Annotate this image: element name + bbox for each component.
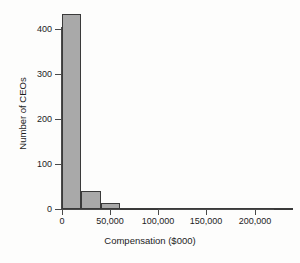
histogram-bar — [139, 208, 158, 210]
x-axis-tick-label: 150,000 — [190, 217, 223, 226]
y-axis-tick-label: 0 — [47, 205, 52, 214]
y-axis-tick-label: 100 — [37, 160, 52, 169]
histogram-bar — [197, 208, 216, 210]
x-axis-line — [61, 209, 293, 210]
histogram-bar — [235, 208, 254, 210]
x-axis-tick — [110, 210, 111, 215]
y-axis-tick-label: 300 — [37, 70, 52, 79]
x-axis-tick-label: 0 — [59, 217, 64, 226]
histogram-bar — [101, 203, 120, 209]
x-axis-tick — [255, 210, 256, 215]
histogram-bar — [178, 208, 197, 210]
y-axis-tick — [55, 209, 61, 210]
histogram-bar — [255, 208, 274, 210]
x-axis-tick-label: 50,000 — [96, 217, 124, 226]
histogram-bar — [158, 208, 177, 210]
y-axis-tick-label: 400 — [37, 25, 52, 34]
x-axis-title: Compensation ($000) — [0, 235, 300, 246]
histogram-bar — [62, 14, 81, 209]
x-axis-tick — [206, 210, 207, 215]
y-axis-tick — [55, 119, 61, 120]
x-axis-tick-label: 100,000 — [142, 217, 175, 226]
histogram-chart: 0100200300400 050,000100,000150,000200,0… — [0, 0, 300, 263]
y-axis-tick — [55, 164, 61, 165]
x-axis-tick-label: 200,000 — [239, 217, 272, 226]
y-axis-tick — [55, 29, 61, 30]
x-axis-tick — [158, 210, 159, 215]
x-axis-tick — [62, 210, 63, 215]
histogram-bar — [216, 208, 235, 210]
histogram-bar — [81, 191, 100, 209]
y-axis-title: Number of CEOs — [17, 54, 28, 174]
y-axis-tick — [55, 74, 61, 75]
histogram-bar — [274, 208, 293, 210]
y-axis-tick-label: 200 — [37, 115, 52, 124]
histogram-bar — [120, 208, 139, 210]
